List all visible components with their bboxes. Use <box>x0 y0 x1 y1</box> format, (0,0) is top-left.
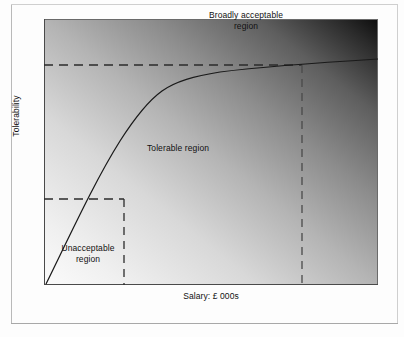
page-frame-top-border <box>11 4 398 5</box>
page-frame-right-border <box>397 4 398 324</box>
x-axis-label: Salary: £ 000s <box>104 291 318 301</box>
y-axis-label-wrapper: Tolerability <box>0 111 66 131</box>
annotation-broadly-acceptable-region: Broadly acceptable region <box>186 10 306 32</box>
y-axis-label: Tolerability <box>11 66 21 166</box>
figure-container: Broadly acceptable region Tolerable regi… <box>0 0 404 337</box>
annotation-tolerable-region: Tolerable region <box>118 143 238 154</box>
page-frame-bottom-border <box>11 323 398 324</box>
annotation-unacceptable-region: Unacceptable region <box>48 243 128 265</box>
